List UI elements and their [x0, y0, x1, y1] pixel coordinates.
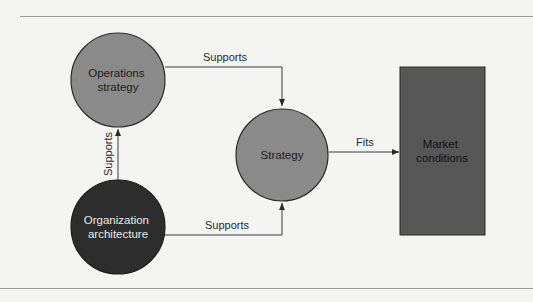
node-label-line: Market	[423, 138, 459, 150]
node-label-line: Strategy	[261, 149, 304, 161]
edge-label-supports-top: Supports	[203, 51, 248, 63]
node-operations-strategy: Operations strategy	[71, 33, 165, 127]
edge-operations-to-strategy: Supports	[165, 51, 282, 106]
edge-strategy-to-market: Fits	[329, 136, 399, 152]
diagram-canvas: Supports Supports Supports Fits Operatio…	[0, 0, 533, 302]
node-label-line: conditions	[416, 152, 468, 164]
edge-label-supports-bottom: Supports	[205, 219, 250, 231]
node-organization-architecture: Organization architecture	[71, 180, 165, 274]
node-label-line: architecture	[88, 228, 148, 240]
node-label-line: Operations	[88, 67, 145, 79]
edge-organization-to-strategy: Supports	[165, 203, 282, 235]
node-label-line: strategy	[98, 81, 139, 93]
edge-label-fits: Fits	[356, 136, 374, 148]
node-market-conditions: Market conditions	[400, 67, 485, 235]
node-label-line: Organization	[84, 214, 149, 226]
edge-label-supports-vertical: Supports	[102, 131, 114, 176]
edge-organization-to-operations: Supports	[102, 129, 118, 180]
node-strategy: Strategy	[236, 109, 328, 201]
